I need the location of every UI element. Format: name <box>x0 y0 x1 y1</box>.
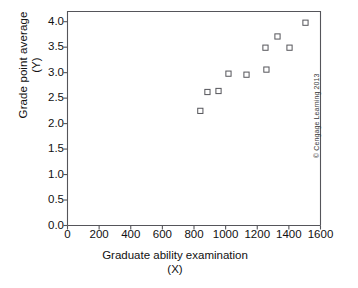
x-tick-label: 1600 <box>299 229 343 241</box>
x-axis-title-line1: Graduate ability examination <box>102 249 248 261</box>
x-axis-tick-labels: 02004006008001000120014001600 <box>0 0 358 288</box>
x-axis-title: Graduate ability examination (X) <box>30 248 320 276</box>
y-axis-title-line2: (Y) <box>30 0 43 155</box>
y-axis-title: Grade point average (Y) <box>17 0 43 155</box>
x-axis-title-line2: (X) <box>30 262 320 276</box>
copyright-credit: © Cengage Learning 2013 <box>313 38 321 158</box>
y-axis-title-line1: Grade point average <box>17 12 29 119</box>
scatter-plot-figure: 0.00.51.01.52.02.53.03.54.0 020040060080… <box>0 0 358 288</box>
